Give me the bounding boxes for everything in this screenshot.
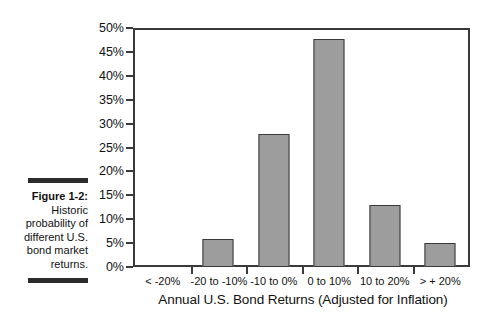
- y-tick-label: 20%: [99, 164, 124, 178]
- bar: [369, 205, 400, 267]
- y-tick-mark: [126, 170, 133, 172]
- caption-rule-bottom: [28, 278, 88, 283]
- x-axis-category-label: 0 to 10%: [302, 274, 358, 288]
- y-tick-mark: [126, 123, 133, 125]
- bar-slot: [357, 30, 413, 267]
- x-tick-mark: [246, 267, 248, 274]
- x-tick-mark: [302, 267, 304, 274]
- bar-slot: [135, 30, 191, 267]
- y-tick-mark: [126, 99, 133, 101]
- figure-caption: Figure 1-2: Historic probability of diff…: [0, 190, 108, 272]
- x-axis-labels: < -20%-20 to -10%-10 to 0%0 to 10%10 to …: [135, 274, 468, 290]
- y-tick-mark: [126, 51, 133, 53]
- bar-slot: [413, 30, 469, 267]
- y-tick-label: 45%: [99, 45, 124, 59]
- y-tick-mark: [126, 27, 133, 29]
- bar: [425, 243, 456, 267]
- y-tick-label: 25%: [99, 141, 124, 155]
- x-tick-mark: [191, 267, 193, 274]
- x-axis-category-label: -10 to 0%: [246, 274, 302, 288]
- figure-caption-block: Figure 1-2: Historic probability of diff…: [0, 178, 108, 283]
- bar: [258, 134, 289, 267]
- caption-rule-top: [28, 178, 88, 183]
- y-tick-label: 0%: [106, 260, 124, 274]
- y-tick-label: 5%: [106, 236, 124, 250]
- figure-caption-text: Historic probability of different U.S. b…: [24, 204, 88, 270]
- x-axis-category-label: -20 to -10%: [191, 274, 247, 288]
- x-axis-category-label: 10 to 20%: [357, 274, 413, 288]
- y-tick-label: 30%: [99, 117, 124, 131]
- x-tick-mark: [357, 267, 359, 274]
- bar: [203, 239, 234, 267]
- y-tick-label: 50%: [99, 21, 124, 35]
- x-axis-title: Annual U.S. Bond Returns (Adjusted for I…: [133, 292, 473, 307]
- bar-slot: [302, 30, 358, 267]
- y-tick-mark: [126, 75, 133, 77]
- bar-slot: [246, 30, 302, 267]
- x-axis-category-label: > + 20%: [413, 274, 469, 288]
- figure-label: Figure 1-2:: [32, 190, 88, 202]
- bars-layer: [135, 30, 468, 267]
- bar: [314, 39, 345, 267]
- bar-slot: [191, 30, 247, 267]
- y-tick-mark: [126, 218, 133, 220]
- y-tick-mark: [126, 266, 133, 268]
- y-tick-mark: [126, 147, 133, 149]
- x-axis-category-label: < -20%: [135, 274, 191, 288]
- y-tick-label: 35%: [99, 93, 124, 107]
- x-tick-mark: [413, 267, 415, 274]
- y-tick-mark: [126, 194, 133, 196]
- y-tick-label: 40%: [99, 69, 124, 83]
- y-tick-mark: [126, 242, 133, 244]
